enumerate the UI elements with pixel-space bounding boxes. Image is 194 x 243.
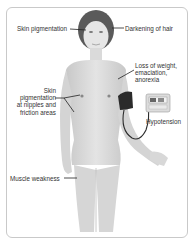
torso: [66, 60, 126, 165]
left-leg: [74, 165, 96, 232]
blood-pressure-monitor-icon: [146, 94, 170, 112]
label-skin-pigmentation-nipples: Skin pigmentation at nipples and frictio…: [8, 87, 56, 116]
label-muscle-weakness: Muscle weakness: [10, 175, 60, 182]
label-loss-of-weight: Loss of weight, emaciation, anorexia: [135, 62, 177, 84]
label-skin-pigmentation: Skin pigmentation: [17, 25, 67, 32]
face: [84, 21, 109, 51]
right-leg: [96, 165, 120, 232]
label-hypotension: Hypotension: [146, 118, 181, 125]
label-darkening-of-hair: Darkening of hair: [125, 25, 173, 32]
